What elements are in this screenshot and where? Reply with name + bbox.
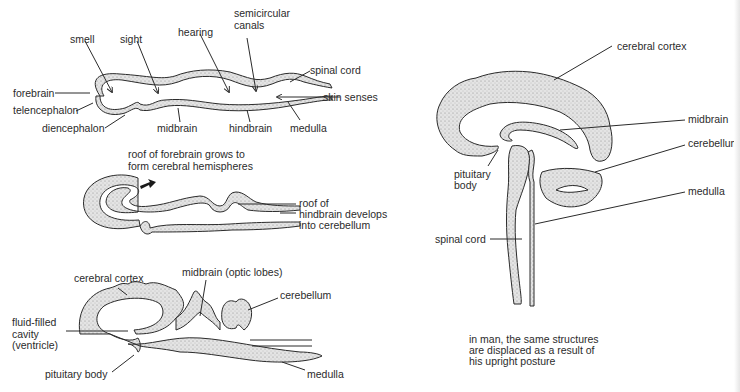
label-spinal-cord: spinal cord [310,64,361,76]
label-midbrain: midbrain [157,122,197,134]
label-cerebellum: cerebellum [280,289,331,301]
label-fluid-filled-3: (ventricle) [12,339,58,351]
label-hindbrain: hindbrain [229,122,272,134]
label-human-pituitary-2: body [454,179,477,191]
label-semicircular-1: semicircular [234,7,290,19]
label-fluid-filled-1: fluid-filled [12,316,56,328]
label-cerebral-cortex: cerebral cortex [74,272,143,284]
label-human-cerebral-cortex: cerebral cortex [617,40,686,52]
label-medulla-3: medulla [307,368,344,380]
developing-brain-diagram [83,175,300,234]
caption-forebrain-roof-1: roof of forebrain grows to [128,148,245,160]
label-hearing: hearing [178,26,213,38]
label-smell: smell [70,33,95,45]
label-into-cerebellum: into cerebellum [299,219,370,231]
label-pituitary-body: pituitary body [45,368,107,380]
brain-evolution-drawing [0,0,740,392]
label-human-cerebellum: cerebellum [688,137,739,149]
label-telencephalon: telencephalon [13,104,78,116]
label-medulla: medulla [290,122,327,134]
label-forebrain: forebrain [13,87,54,99]
caption-human-3: his upright posture [469,356,555,367]
label-diencephalon: diencephalon [42,122,104,134]
caption-forebrain-roof-2: form cerebral hemispheres [128,160,253,172]
label-human-medulla: medulla [688,185,725,197]
label-semicircular-2: canals [234,19,264,31]
label-human-midbrain: midbrain [688,113,728,125]
label-skin-senses: skin senses [323,91,378,103]
label-human-spinal-cord: spinal cord [435,233,486,245]
page-edge-shadow [734,0,740,392]
neural-tube-diagram [55,34,340,128]
label-sight: sight [120,33,142,45]
label-midbrain-optic-lobes: midbrain (optic lobes) [182,266,282,278]
